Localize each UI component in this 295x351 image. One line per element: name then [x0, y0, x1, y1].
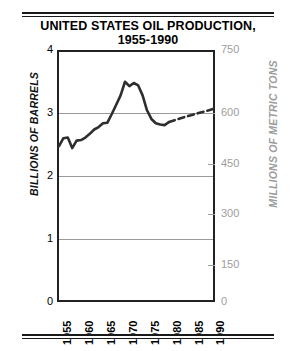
- line-actual-production: [59, 82, 169, 148]
- right-tickmark-150: [208, 265, 215, 266]
- x-tick-1965: 1965: [105, 321, 117, 345]
- right-tickmark-600: [208, 113, 215, 114]
- right-tick-600: 600: [221, 106, 239, 118]
- x-tick-1980: 1980: [171, 321, 183, 345]
- right-tick-450: 450: [221, 157, 239, 169]
- top-rule: [22, 12, 274, 17]
- x-tick-1960: 1960: [83, 321, 95, 345]
- right-tick-0: 0: [221, 295, 227, 307]
- data-series-svg: [59, 52, 213, 300]
- x-tick-1970: 1970: [127, 321, 139, 345]
- right-tick-300: 300: [221, 207, 239, 219]
- x-tick-1985: 1985: [193, 321, 205, 345]
- right-axis-tick-labels: 750 600 450 300 150 0: [221, 50, 255, 302]
- bottom-rule: [22, 334, 274, 339]
- left-axis-title: BILLIONS OF BARRELS: [28, 54, 40, 214]
- chart-page: UNITED STATES OIL PRODUCTION, 1955-1990 …: [0, 0, 295, 351]
- left-tick-1: 1: [33, 232, 53, 244]
- x-axis-tick-labels: 1955 1960 1965 1970 1975 1980 1985 1990: [57, 303, 215, 349]
- x-tick-1955: 1955: [61, 321, 73, 345]
- right-tick-150: 150: [221, 258, 239, 270]
- left-tick-0: 0: [33, 295, 53, 307]
- x-tick-1975: 1975: [149, 321, 161, 345]
- chart-title-line1: UNITED STATES OIL PRODUCTION,: [40, 19, 255, 33]
- right-tick-750: 750: [221, 43, 239, 55]
- right-tickmark-300: [208, 214, 215, 215]
- line-projected-production: [169, 109, 213, 122]
- plot-area: [57, 50, 215, 302]
- right-axis-title: MILLIONS OF METRIC TONS: [267, 39, 279, 229]
- right-tickmark-450: [208, 164, 215, 165]
- x-tick-1990: 1990: [214, 321, 226, 345]
